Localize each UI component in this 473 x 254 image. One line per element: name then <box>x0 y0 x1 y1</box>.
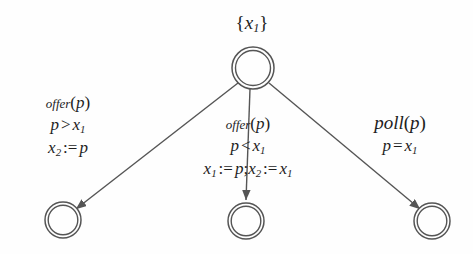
edge-left-guard-operator: > <box>59 115 73 134</box>
edge-middle-guard-rhs-subscript: 1 <box>260 144 265 156</box>
edge-right-action: poll(p) <box>340 110 460 135</box>
edge-left-action-arg: p <box>76 93 85 112</box>
set-close-brace: } <box>259 12 268 33</box>
edge-left-paren-close: ) <box>85 93 91 112</box>
edge-middle-guard-lhs: p <box>230 136 239 155</box>
node-source-outer-circle <box>232 47 274 89</box>
set-variable: x <box>245 12 253 33</box>
edge-right-guard: p=x1 <box>340 135 460 157</box>
edge-middle-action: offer(p) <box>148 113 348 135</box>
edge-middle-update2-rhs-subscript: 1 <box>287 167 292 179</box>
edge-right-guard-lhs: p <box>382 136 391 155</box>
edge-middle-update2-operator: := <box>261 159 279 178</box>
edge-left-update: x2:=p <box>8 137 128 159</box>
edge-middle-action-name: offer <box>226 117 251 132</box>
edge-right-guard-operator: = <box>391 136 405 155</box>
edge-right-guard-rhs-subscript: 1 <box>412 144 417 156</box>
start-state-set-label: {x1} <box>214 10 290 37</box>
edge-middle-action-arg: p <box>256 114 265 133</box>
set-open-brace: { <box>236 12 245 33</box>
edge-right-action-arg: p <box>410 112 420 133</box>
edge-left-action-name: offer <box>46 96 71 111</box>
node-target-right-outer-circle <box>414 203 450 239</box>
edge-right-guard-rhs: x <box>405 136 413 155</box>
edge-right-action-name: poll <box>374 112 404 133</box>
edge-left-update-rhs: p <box>79 138 88 157</box>
edge-right-paren-close: ) <box>420 112 426 133</box>
node-target-left-outer-circle <box>45 202 81 238</box>
edge-left-guard: p>x1 <box>8 114 128 136</box>
edge-left-guard-rhs: x <box>73 115 81 134</box>
edge-left-update-lhs: x <box>48 138 56 157</box>
edge-label-middle: offer(p) p<x1 x1:=p;x2:=x1 <box>148 113 348 180</box>
edge-middle-guard-operator: < <box>239 136 253 155</box>
edge-middle-guard: p<x1 <box>148 135 348 157</box>
edge-middle-update2-rhs: x <box>279 159 287 178</box>
edge-middle-paren-close: ) <box>265 114 271 133</box>
edge-left-guard-rhs-subscript: 1 <box>80 123 85 135</box>
edge-middle-update2-lhs: x <box>248 159 256 178</box>
edge-left-guard-lhs: p <box>50 115 59 134</box>
edge-middle-update1-operator: := <box>217 159 235 178</box>
edge-label-left: offer(p) p>x1 x2:=p <box>8 92 128 159</box>
edge-middle-guard-rhs: x <box>253 136 261 155</box>
node-target-middle-outer-circle <box>228 203 264 239</box>
node-target-right[interactable] <box>414 203 450 239</box>
node-target-middle[interactable] <box>228 203 264 239</box>
edge-left-update-operator: := <box>61 138 79 157</box>
edge-label-right: poll(p) p=x1 <box>340 110 460 158</box>
node-source[interactable] <box>232 47 274 89</box>
edge-left-action: offer(p) <box>8 92 128 114</box>
node-target-left[interactable] <box>45 202 81 238</box>
edge-middle-update1-lhs-subscript: 1 <box>211 167 216 179</box>
state-transition-diagram: {x1} offer(p) p>x1 x2:=p offer(p) p<x1 x… <box>0 0 473 254</box>
edge-middle-update1-lhs: x <box>204 159 212 178</box>
edge-middle-update: x1:=p;x2:=x1 <box>148 158 348 180</box>
